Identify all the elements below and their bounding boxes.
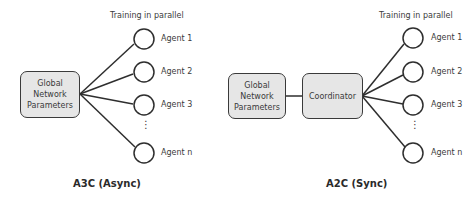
- right-global-network-box: Global Network Parameters: [228, 73, 286, 119]
- left-agent-1-label: Agent 1: [161, 34, 192, 43]
- right-title: A2C (Sync): [326, 178, 387, 189]
- left-agent-n-label: Agent n: [161, 148, 192, 157]
- right-agent-n-label: Agent n: [431, 148, 462, 157]
- coordinator-label: Coordinator: [309, 91, 356, 102]
- left-agent-3-label: Agent 3: [161, 100, 192, 109]
- left-global-network-box: Global Network Parameters: [20, 71, 80, 118]
- right-global-network-label: Global Network Parameters: [232, 80, 282, 113]
- left-global-network-label: Global Network Parameters: [25, 78, 75, 111]
- left-agent-2-label: Agent 2: [161, 67, 192, 76]
- left-ellipsis: ⋮: [141, 119, 151, 130]
- right-ellipsis: ⋮: [410, 119, 420, 130]
- right-agent-1-label: Agent 1: [431, 33, 462, 42]
- left-title: A3C (Async): [73, 178, 141, 189]
- right-agent-3-label: Agent 3: [431, 100, 462, 109]
- left-header: Training in parallel: [110, 11, 184, 20]
- right-agent-2-label: Agent 2: [431, 67, 462, 76]
- right-header: Training in parallel: [379, 11, 453, 20]
- coordinator-box: Coordinator: [302, 73, 363, 119]
